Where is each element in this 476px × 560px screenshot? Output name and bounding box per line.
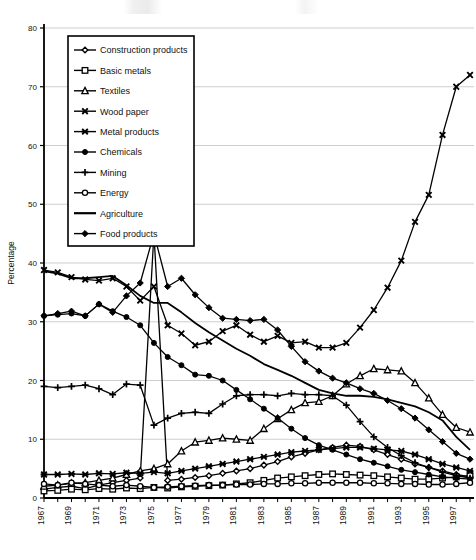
marker-filled-circle xyxy=(220,378,225,383)
marker-filled-circle xyxy=(358,457,363,462)
marker-open-triangle xyxy=(178,448,184,454)
marker-open-square xyxy=(82,68,88,74)
marker-asterisk xyxy=(412,452,419,458)
marker-x-cross xyxy=(467,72,473,78)
marker-x-cross xyxy=(137,298,143,304)
marker-filled-diamond xyxy=(467,456,473,462)
marker-plus xyxy=(41,383,48,390)
marker-x-cross xyxy=(247,332,253,338)
marker-plus xyxy=(274,392,281,399)
marker-open-diamond xyxy=(179,476,185,482)
marker-x-cross xyxy=(357,325,363,331)
legend-item-label: Mining xyxy=(100,168,127,178)
x-tick-label: 1997 xyxy=(448,506,458,525)
marker-filled-circle xyxy=(371,460,376,465)
marker-open-diamond xyxy=(220,471,226,477)
marker-asterisk xyxy=(219,461,226,467)
marker-asterisk xyxy=(82,472,89,478)
marker-open-circle xyxy=(179,484,184,489)
marker-filled-circle xyxy=(316,443,321,448)
marker-asterisk xyxy=(96,471,103,477)
marker-open-square xyxy=(82,487,88,493)
marker-open-square xyxy=(275,475,281,481)
marker-x-cross xyxy=(385,285,391,291)
marker-asterisk xyxy=(192,466,199,472)
marker-filled-diamond xyxy=(371,390,377,396)
marker-filled-diamond xyxy=(357,386,363,392)
x-tick-label: 1983 xyxy=(256,506,266,525)
x-tick-label: 1987 xyxy=(311,506,321,525)
x-axis: 1967196919711973197519771979198119831985… xyxy=(36,498,470,525)
marker-asterisk xyxy=(425,456,432,462)
legend-item-label: Agriculture xyxy=(100,209,143,219)
series-food-products xyxy=(41,231,473,463)
marker-asterisk xyxy=(439,461,446,467)
marker-open-circle xyxy=(165,484,170,489)
marker-x-cross xyxy=(165,322,171,328)
marker-open-circle xyxy=(454,481,459,486)
line-chart: 01020304050607080Percentage1967196919711… xyxy=(0,0,476,560)
marker-plus xyxy=(192,409,199,416)
marker-open-square xyxy=(371,473,377,479)
y-tick-label: 20 xyxy=(28,377,37,386)
marker-filled-circle xyxy=(124,315,129,320)
marker-asterisk xyxy=(233,459,240,465)
x-tick-label: 1981 xyxy=(228,506,238,525)
y-tick-label: 10 xyxy=(28,435,37,444)
marker-open-triangle xyxy=(302,399,308,405)
marker-open-circle xyxy=(385,481,390,486)
legend-item-label: Energy xyxy=(100,188,129,198)
marker-open-square xyxy=(289,474,295,480)
marker-open-circle xyxy=(330,480,335,485)
marker-plus xyxy=(96,385,103,392)
marker-open-circle xyxy=(83,481,88,486)
marker-filled-circle xyxy=(193,372,198,377)
marker-open-square xyxy=(344,472,350,478)
x-tick-label: 1991 xyxy=(366,506,376,525)
marker-filled-circle xyxy=(234,387,239,392)
marker-filled-diamond xyxy=(165,283,171,289)
marker-open-square xyxy=(357,472,363,478)
marker-asterisk xyxy=(247,456,254,462)
y-tick-label: 50 xyxy=(28,200,37,209)
marker-filled-circle xyxy=(330,447,335,452)
marker-x-cross xyxy=(220,328,226,334)
marker-open-diamond xyxy=(261,462,267,468)
marker-open-circle xyxy=(206,482,211,487)
marker-open-circle xyxy=(41,481,46,486)
series-line xyxy=(44,369,470,487)
y-axis-title: Percentage xyxy=(6,241,16,285)
marker-filled-circle xyxy=(303,436,308,441)
x-tick-label: 1985 xyxy=(283,506,293,525)
marker-open-diamond xyxy=(165,478,171,484)
series-basic-metals xyxy=(41,471,473,494)
marker-x-cross xyxy=(371,307,377,313)
marker-open-circle xyxy=(426,482,431,487)
marker-open-square xyxy=(385,474,391,480)
marker-open-triangle xyxy=(192,439,198,445)
series-metal-products xyxy=(41,445,474,478)
marker-open-square xyxy=(302,473,308,479)
legend-item-label: Food products xyxy=(100,229,158,239)
marker-open-square xyxy=(316,472,322,478)
marker-plus xyxy=(137,382,144,389)
x-tick-label: 1969 xyxy=(63,506,73,525)
marker-asterisk xyxy=(453,465,460,471)
marker-filled-circle xyxy=(83,150,88,155)
marker-open-circle xyxy=(138,484,143,489)
marker-open-circle xyxy=(344,480,349,485)
marker-filled-circle xyxy=(413,470,418,475)
marker-open-circle xyxy=(371,481,376,486)
legend-item-label: Chemicals xyxy=(100,147,143,157)
legend-item-label: Basic metals xyxy=(100,66,152,76)
marker-open-square xyxy=(330,471,336,477)
marker-asterisk xyxy=(178,468,185,474)
marker-open-circle xyxy=(357,480,362,485)
x-tick-label: 1973 xyxy=(118,506,128,525)
marker-filled-circle xyxy=(165,355,170,360)
series-line xyxy=(44,234,470,490)
marker-x-cross xyxy=(261,339,267,345)
y-tick-label: 30 xyxy=(28,318,37,327)
marker-open-diamond xyxy=(192,475,198,481)
series-line xyxy=(44,234,470,460)
